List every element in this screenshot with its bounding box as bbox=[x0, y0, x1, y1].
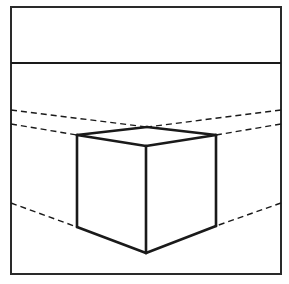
guide-line-mid-left bbox=[11, 124, 77, 135]
perspective-diagram bbox=[0, 0, 289, 284]
cube-edge bbox=[77, 135, 146, 146]
cube-edge bbox=[146, 226, 216, 253]
guide-line-lower-right bbox=[216, 203, 281, 226]
guide-line-lower-left bbox=[11, 203, 77, 227]
cube-edge bbox=[146, 135, 216, 146]
diagram-svg bbox=[0, 0, 289, 284]
cube-edge bbox=[77, 127, 147, 135]
cube bbox=[77, 127, 216, 253]
cube-edge bbox=[77, 227, 146, 253]
guide-line-mid-right bbox=[216, 124, 281, 135]
guide-line-upper-left bbox=[11, 110, 147, 127]
cube-edge bbox=[147, 127, 216, 135]
guide-line-upper-right bbox=[147, 110, 281, 127]
